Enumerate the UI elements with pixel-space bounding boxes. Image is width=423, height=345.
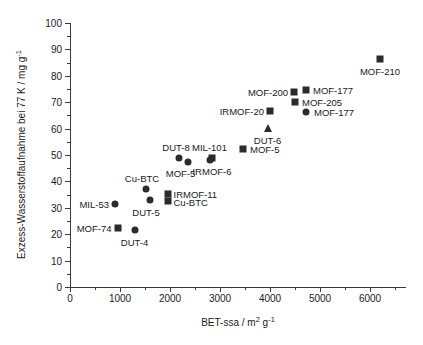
y-tick-major (65, 181, 70, 182)
y-tick-label: 30 (51, 202, 62, 213)
plot-area: MIL-53MOF-74DUT-4Cu-BTCDUT-5IRMOF-11Cu-B… (70, 23, 406, 287)
x-tick-label: 5000 (309, 293, 331, 304)
point-label-mof-5-c: MOF-5 (166, 168, 196, 179)
y-tick-label: 0 (56, 282, 62, 293)
data-marker-dut-4 (131, 227, 138, 234)
x-tick-major (220, 287, 221, 292)
data-marker-mof-5-c (184, 159, 191, 166)
data-marker-dut-8 (176, 154, 183, 161)
x-tick-major (370, 287, 371, 292)
x-axis-unit-exponent-2: -1 (268, 315, 275, 324)
point-label-mof-177-s: MOF-177 (313, 85, 353, 96)
data-marker-mof-200 (291, 88, 298, 95)
x-tick-minor (395, 287, 396, 290)
point-label-mof-5-s: MOF-5 (250, 144, 280, 155)
point-label-mof-200: MOF-200 (248, 86, 288, 97)
point-label-dut-4: DUT-4 (121, 237, 148, 248)
x-axis-tick-labels: 0100020003000400050006000 (70, 293, 406, 307)
y-tick-major (65, 49, 70, 50)
y-tick-major (65, 23, 70, 24)
y-tick-label: 40 (51, 176, 62, 187)
x-tick-major (70, 287, 71, 292)
y-tick-minor (67, 142, 70, 143)
x-tick-major (320, 287, 321, 292)
y-tick-major (65, 261, 70, 262)
data-marker-dut-6 (264, 124, 272, 132)
x-tick-minor (145, 287, 146, 290)
data-marker-irmof-20 (267, 108, 274, 115)
y-tick-minor (67, 195, 70, 196)
x-tick-label: 0 (67, 293, 73, 304)
data-marker-mil-53 (112, 200, 119, 207)
y-tick-label: 60 (51, 123, 62, 134)
y-tick-major (65, 76, 70, 77)
y-axis-tick-labels: 0102030405060708090100 (30, 23, 62, 287)
data-marker-cu-btc-s (164, 197, 171, 204)
data-marker-mof-74 (114, 224, 121, 231)
point-label-mof-74: MOF-74 (77, 222, 112, 233)
data-marker-mof-210 (377, 55, 384, 62)
x-tick-label: 6000 (359, 293, 381, 304)
y-tick-major (65, 208, 70, 209)
x-tick-label: 4000 (259, 293, 281, 304)
x-axis-title: BET-ssa / m2 g-1 (70, 317, 406, 328)
point-label-dut-8: DUT-8 (162, 141, 189, 152)
point-label-cu-btc-c: Cu-BTC (125, 172, 159, 183)
y-axis-unit-exponent: -1 (14, 50, 23, 57)
y-tick-minor (67, 63, 70, 64)
x-tick-major (120, 287, 121, 292)
x-tick-label: 2000 (159, 293, 181, 304)
point-label-mof-210: MOF-210 (360, 65, 400, 76)
point-label-irmof-6: IRMOF-6 (192, 165, 231, 176)
point-label-irmof-20: IRMOF-20 (220, 106, 264, 117)
y-tick-minor (67, 36, 70, 37)
data-marker-mof-177-c (303, 108, 310, 115)
y-tick-major (65, 155, 70, 156)
y-axis-line (70, 23, 71, 287)
point-label-mil-53: MIL-53 (79, 198, 109, 209)
x-tick-major (270, 287, 271, 292)
point-label-dut-6: DUT-6 (254, 134, 281, 145)
y-tick-minor (67, 221, 70, 222)
y-tick-label: 20 (51, 229, 62, 240)
data-marker-mof-205 (292, 98, 299, 105)
y-tick-label: 90 (51, 44, 62, 55)
y-tick-label: 70 (51, 97, 62, 108)
point-label-mof-177-c: MOF-177 (314, 106, 354, 117)
y-axis-title-wrapper: Exzess-Wasserstoffaufnahme bei 77 K / mg… (18, 287, 19, 288)
y-tick-label: 50 (51, 150, 62, 161)
y-tick-label: 80 (51, 70, 62, 81)
data-marker-cu-btc-c (143, 185, 150, 192)
y-tick-major (65, 102, 70, 103)
y-tick-minor (67, 89, 70, 90)
x-axis-unit-exponent-1: 2 (256, 315, 260, 324)
x-tick-minor (245, 287, 246, 290)
y-tick-minor (67, 115, 70, 116)
y-tick-minor (67, 168, 70, 169)
x-tick-minor (95, 287, 96, 290)
point-label-dut-5: DUT-5 (132, 206, 159, 217)
x-tick-minor (295, 287, 296, 290)
y-tick-label: 10 (51, 255, 62, 266)
y-tick-minor (67, 274, 70, 275)
y-tick-major (65, 234, 70, 235)
point-label-cu-btc-s: Cu-BTC (174, 196, 208, 207)
x-tick-minor (345, 287, 346, 290)
x-tick-label: 1000 (109, 293, 131, 304)
x-tick-label: 3000 (209, 293, 231, 304)
data-marker-mof-5-s (240, 146, 247, 153)
x-tick-minor (195, 287, 196, 290)
y-tick-label: 100 (45, 18, 62, 29)
data-marker-mil-101 (208, 155, 215, 162)
y-tick-major (65, 129, 70, 130)
x-tick-major (170, 287, 171, 292)
chart-figure: MIL-53MOF-74DUT-4Cu-BTCDUT-5IRMOF-11Cu-B… (0, 0, 423, 345)
data-marker-dut-5 (147, 196, 154, 203)
y-tick-minor (67, 247, 70, 248)
data-marker-irmof-11 (164, 190, 171, 197)
y-axis-title: Exzess-Wasserstoffaufnahme bei 77 K / mg… (13, 22, 31, 287)
data-marker-mof-177-s (303, 87, 310, 94)
point-label-mil-101: MIL-101 (192, 142, 227, 153)
